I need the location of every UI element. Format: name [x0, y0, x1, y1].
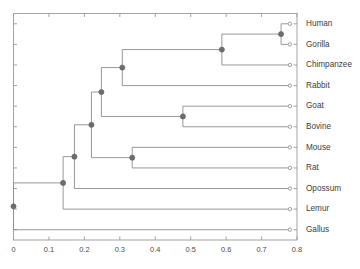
leaf-tip-marker [288, 22, 291, 25]
merge-node-marker [99, 89, 104, 94]
x-tick-label: 0.4 [150, 245, 160, 254]
leaf-tip-marker [288, 63, 291, 66]
dendrogram-merge-nodes [11, 31, 284, 208]
dendrogram-figure: 00.10.20.30.40.50.60.70.8 HumanGorillaCh… [0, 0, 360, 269]
leaf-label-bovine: Bovine [306, 122, 331, 131]
leaf-label-gorilla: Gorilla [306, 40, 330, 49]
merge-node-marker [278, 31, 283, 36]
leaf-label-mouse: Mouse [306, 143, 331, 152]
leaf-tip-marker [288, 187, 291, 190]
merge-node-marker [89, 122, 94, 127]
leaf-label-lemur: Lemur [306, 204, 329, 213]
leaf-label-chimpanzee: Chimpanzee [306, 60, 352, 69]
x-tick-label: 0.3 [115, 245, 125, 254]
dendrogram-plot: 00.10.20.30.40.50.60.70.8 HumanGorillaCh… [0, 0, 360, 269]
leaf-tip-marker [288, 146, 291, 149]
leaf-tip-marker [288, 125, 291, 128]
x-tick-label: 0.5 [186, 245, 196, 254]
x-tick-label: 0.8 [292, 245, 302, 254]
x-tick-label: 0.7 [256, 245, 266, 254]
leaf-label-gallus: Gallus [306, 225, 329, 234]
merge-node-marker [120, 65, 125, 70]
x-tick-label: 0.2 [79, 245, 89, 254]
merge-node-marker [180, 114, 185, 119]
x-axis-tick-labels: 00.10.20.30.40.50.60.70.8 [11, 245, 302, 254]
leaf-label-human: Human [306, 19, 333, 28]
x-tick-label: 0.1 [44, 245, 54, 254]
dendrogram-links [14, 24, 290, 230]
merge-node-marker [11, 204, 16, 209]
leaf-label-rat: Rat [306, 163, 319, 172]
x-tick-label: 0.6 [221, 245, 231, 254]
leaf-tip-marker [288, 104, 291, 107]
leaf-tip-marker [288, 166, 291, 169]
merge-node-marker [61, 180, 66, 185]
dendrogram-leaf-nodes [288, 22, 291, 231]
leaf-label-opossum: Opossum [306, 184, 341, 193]
leaf-tip-marker [288, 207, 291, 210]
leaf-labels: HumanGorillaChimpanzeeRabbitGoatBovineMo… [306, 19, 352, 234]
leaf-label-rabbit: Rabbit [306, 81, 330, 90]
leaf-tip-marker [288, 228, 291, 231]
merge-node-marker [72, 154, 77, 159]
leaf-tip-marker [288, 84, 291, 87]
leaf-tip-marker [288, 43, 291, 46]
merge-node-marker [219, 47, 224, 52]
x-tick-label: 0 [11, 245, 15, 254]
leaf-label-goat: Goat [306, 101, 324, 110]
merge-node-marker [130, 155, 135, 160]
